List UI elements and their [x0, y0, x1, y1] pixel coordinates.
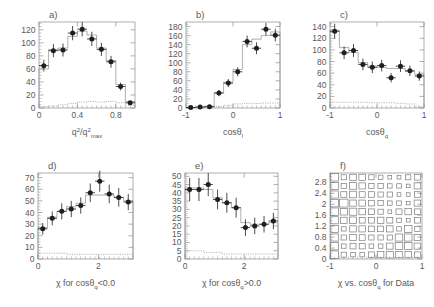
box-marker — [404, 234, 412, 241]
box-marker — [388, 210, 392, 214]
data-marker — [224, 200, 229, 205]
data-marker — [116, 195, 121, 200]
box-marker — [387, 217, 393, 223]
box-marker — [350, 234, 357, 240]
panel-c: 020406080100120140-101c)cosθq — [290, 0, 434, 153]
box-marker — [387, 184, 392, 188]
panel-label: e) — [195, 160, 203, 171]
box-marker — [369, 235, 374, 240]
x-tick-label: -1 — [326, 261, 334, 271]
data-marker — [262, 222, 267, 227]
y-tick-label: 100 — [312, 45, 326, 55]
box-marker — [414, 217, 420, 223]
box-marker — [341, 217, 348, 223]
data-points — [330, 24, 424, 83]
data-marker — [97, 179, 102, 184]
data-marker — [398, 64, 403, 69]
x-tick-label: 2 — [96, 261, 101, 271]
box-marker — [331, 242, 339, 250]
y-tick-label: 60 — [317, 68, 327, 78]
box-marker — [387, 201, 392, 205]
data-marker — [360, 62, 365, 67]
y-tick-label: 30 — [25, 219, 35, 229]
box-marker — [414, 200, 421, 206]
box-marker — [406, 193, 410, 197]
panel-e: 0510152025303540455002e)χ for cosθq>0.0 — [145, 153, 290, 307]
box-marker — [414, 174, 420, 180]
panel-label: c) — [340, 9, 348, 20]
y-tick-label: 2.8 — [315, 177, 327, 187]
box-marker — [369, 244, 374, 248]
box-marker — [350, 226, 357, 232]
x-axis-label: cosθq — [366, 127, 388, 139]
box-marker — [341, 183, 346, 188]
box-marker — [406, 201, 410, 205]
data-marker — [41, 63, 46, 68]
box-marker — [378, 235, 383, 240]
y-tick-label: 20 — [25, 231, 35, 241]
data-marker — [196, 187, 201, 192]
box-marker — [414, 192, 420, 198]
box-marker — [349, 183, 356, 190]
box-marker — [368, 226, 374, 232]
data-marker — [226, 81, 231, 86]
box-marker — [350, 174, 357, 180]
y-tick-label: 120 — [168, 49, 182, 59]
box-marker — [349, 217, 356, 224]
panel-label: f) — [340, 160, 346, 171]
box-marker — [414, 183, 421, 189]
box-marker — [387, 192, 392, 197]
box-marker — [359, 183, 366, 189]
box-marker — [351, 253, 356, 257]
box-marker — [331, 208, 339, 216]
y-tick-label: 0 — [31, 103, 36, 113]
box-marker — [350, 200, 357, 206]
data-marker — [128, 100, 133, 105]
x-tick-label: 0 — [231, 110, 236, 120]
data-marker — [417, 74, 422, 79]
box-marker — [359, 217, 365, 223]
y-tick-label: 20 — [26, 90, 36, 100]
y-tick-label: 60 — [173, 76, 183, 86]
y-tick-label: 20 — [173, 94, 183, 104]
box-marker — [388, 176, 392, 180]
box-marker — [359, 226, 366, 232]
box-marker — [387, 235, 392, 240]
y-tick-label: 140 — [168, 40, 182, 50]
panel-d: 01020304050607002d)χ for cosθq<0.0 — [0, 153, 145, 307]
box-marker — [368, 200, 374, 206]
box-marker — [406, 184, 410, 188]
y-tick-label: 40 — [317, 80, 327, 90]
data-marker — [370, 65, 375, 70]
box-marker — [414, 234, 421, 240]
x-tick-label: -1 — [326, 110, 334, 120]
box-marker — [387, 243, 394, 249]
y-tick-label: 40 — [173, 85, 183, 95]
x-tick-label: 0 — [37, 110, 42, 120]
y-tick-label: 1.2 — [315, 221, 327, 231]
box-marker — [331, 174, 339, 182]
box-marker — [359, 200, 366, 206]
box-marker — [349, 208, 357, 215]
box-marker — [406, 219, 410, 223]
box-marker — [378, 183, 383, 188]
box-marker — [404, 225, 412, 232]
box-marker — [395, 243, 403, 250]
panel-f: 00.40.81.21.622.42.8-101f)χ vs. cosθq fo… — [290, 153, 434, 307]
data-marker — [245, 39, 250, 44]
x-tick-label: 1 — [420, 261, 425, 271]
x-axis-label: χ for cosθq<0.0 — [56, 278, 115, 290]
y-tick-label: 60 — [25, 184, 35, 194]
y-tick-label: 50 — [25, 196, 35, 206]
box-marker — [349, 191, 356, 198]
data-marker — [118, 84, 123, 89]
data-marker — [379, 63, 384, 68]
y-tick-label: 40 — [26, 77, 36, 87]
y-tick-label: 80 — [26, 51, 36, 61]
box-marker — [331, 182, 339, 189]
y-tick-label: 80 — [173, 67, 183, 77]
data-marker — [40, 226, 45, 231]
box-marker — [415, 226, 420, 231]
plot-frame — [330, 22, 424, 108]
box-marker — [406, 175, 411, 180]
